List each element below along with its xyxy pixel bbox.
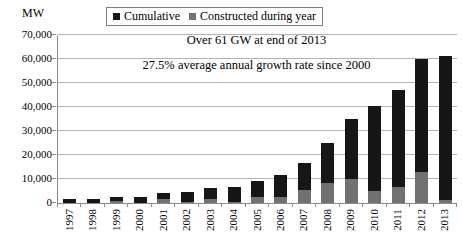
x-axis-tick — [80, 204, 81, 207]
y-tick-label: 10,000 — [0, 173, 52, 184]
x-tick-label: 2002 — [180, 204, 192, 236]
x-axis-tick — [151, 204, 152, 207]
y-tick-label: 60,000 — [0, 53, 52, 64]
bar-segment-cumulative — [345, 119, 358, 179]
x-axis-tick — [456, 204, 457, 207]
bar-2001 — [157, 193, 170, 203]
bar-2006 — [274, 175, 287, 203]
cumulative-swatch-icon — [113, 13, 120, 20]
bar-2008 — [321, 143, 334, 203]
bar-2012 — [415, 59, 428, 203]
x-axis-tick — [221, 204, 222, 207]
x-axis-tick — [292, 204, 293, 207]
bar-segment-cumulative — [392, 90, 405, 187]
y-axis-tick — [52, 202, 56, 203]
bar-segment-cumulative — [251, 181, 264, 197]
bar-segment-cumulative — [63, 199, 76, 203]
bar-segment-constructed — [368, 191, 381, 203]
x-tick-label: 1998 — [86, 204, 98, 236]
x-tick-label: 2010 — [368, 204, 380, 236]
y-axis-tick — [52, 58, 56, 59]
bar-segment-constructed — [439, 200, 452, 203]
x-tick-label: 1997 — [63, 204, 75, 236]
y-tick-label: 70,000 — [0, 29, 52, 40]
x-axis-tick — [127, 204, 128, 207]
legend-item-constructed: Constructed during year — [189, 9, 316, 24]
bar-segment-constructed — [298, 190, 311, 203]
y-axis-tick — [52, 34, 56, 35]
y-tick-label: 40,000 — [0, 101, 52, 112]
x-axis-tick — [339, 204, 340, 207]
x-axis-tick — [198, 204, 199, 207]
x-tick-label: 2006 — [274, 204, 286, 236]
bar-2003 — [204, 188, 217, 203]
x-tick-label: 2005 — [251, 204, 263, 236]
y-tick-label: 0 — [0, 197, 52, 208]
bar-segment-cumulative — [134, 197, 147, 203]
constructed-swatch-icon — [189, 13, 196, 20]
bar-1997 — [63, 199, 76, 203]
bar-segment-cumulative — [321, 143, 334, 183]
y-axis-tick — [52, 82, 56, 83]
x-axis-tick — [315, 204, 316, 207]
x-tick-label: 2007 — [297, 204, 309, 236]
x-axis-tick — [409, 204, 410, 207]
bar-segment-constructed — [274, 197, 287, 203]
bar-segment-cumulative — [368, 106, 381, 191]
x-axis-tick — [386, 204, 387, 207]
bar-2005 — [251, 181, 264, 203]
bar-segment-cumulative — [298, 163, 311, 190]
y-axis-tick — [52, 178, 56, 179]
x-tick-label: 1999 — [110, 204, 122, 236]
chart-legend: Cumulative Constructed during year — [106, 7, 323, 26]
bar-2010 — [368, 106, 381, 203]
y-tick-label: 50,000 — [0, 77, 52, 88]
bar-1999 — [110, 197, 123, 203]
bar-2002 — [181, 192, 194, 203]
y-axis-tick — [52, 154, 56, 155]
x-tick-label: 2000 — [133, 204, 145, 236]
x-axis-tick — [174, 204, 175, 207]
bar-segment-constructed — [321, 183, 334, 203]
bar-segment-constructed — [228, 202, 241, 203]
bar-2000 — [134, 197, 147, 203]
bar-1998 — [87, 199, 100, 203]
x-axis-tick — [362, 204, 363, 207]
bar-segment-cumulative — [415, 59, 428, 172]
bar-2011 — [392, 90, 405, 203]
x-axis-tick — [104, 204, 105, 207]
bar-segment-constructed — [181, 202, 194, 203]
y-axis-title: MW — [22, 6, 44, 21]
bar-segment-cumulative — [228, 187, 241, 202]
x-axis-tick — [268, 204, 269, 207]
bar-segment-cumulative — [439, 56, 452, 200]
x-axis-tick — [245, 204, 246, 207]
plot-area — [57, 35, 457, 204]
bar-2013 — [439, 56, 452, 203]
wind-capacity-chart: MW Cumulative Constructed during year Ov… — [0, 0, 462, 241]
x-tick-label: 2012 — [415, 204, 427, 236]
x-tick-label: 2008 — [321, 204, 333, 236]
bar-2007 — [298, 163, 311, 203]
bar-segment-constructed — [157, 199, 170, 203]
bar-segment-cumulative — [274, 175, 287, 197]
x-axis-tick — [57, 204, 58, 207]
y-tick-label: 30,000 — [0, 125, 52, 136]
legend-label-constructed: Constructed during year — [200, 9, 316, 24]
x-axis-tick — [433, 204, 434, 207]
bar-segment-constructed — [204, 199, 217, 203]
y-tick-label: 20,000 — [0, 149, 52, 160]
bar-segment-constructed — [415, 172, 428, 203]
bar-segment-constructed — [110, 201, 123, 203]
bar-segment-constructed — [345, 179, 358, 203]
x-tick-label: 2009 — [344, 204, 356, 236]
bar-2009 — [345, 119, 358, 203]
bar-2004 — [228, 187, 241, 203]
bar-segment-constructed — [251, 197, 264, 203]
y-axis-tick — [52, 130, 56, 131]
gridline — [58, 58, 457, 59]
legend-item-cumulative: Cumulative — [113, 9, 180, 24]
x-tick-label: 2004 — [227, 204, 239, 236]
x-tick-label: 2013 — [438, 204, 450, 236]
bar-segment-constructed — [392, 187, 405, 203]
